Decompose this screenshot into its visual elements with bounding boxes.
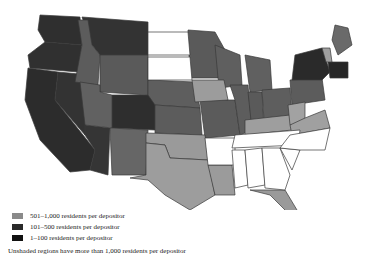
state-iowa [192, 80, 228, 102]
legend-swatch-light [12, 213, 23, 219]
us-choropleth-map [0, 0, 371, 210]
state-michigan [245, 55, 272, 92]
state-florida [250, 190, 300, 210]
state-missouri [200, 100, 240, 138]
legend-item-101-500: 101–500 residents per depositor [12, 221, 371, 232]
legend-item-501-1000: 501–1,000 residents per depositor [12, 210, 371, 221]
legend-note: Unshaded regions have more than 1,000 re… [8, 247, 186, 255]
legend-swatch-medium [12, 224, 23, 230]
map-canvas [0, 0, 371, 210]
state-nebraska [148, 80, 200, 108]
legend-label: 101–500 residents per depositor [30, 223, 120, 231]
state-maine [332, 25, 352, 55]
state-oregon [28, 42, 82, 72]
state-massachusetts-area [328, 62, 348, 78]
legend-label: 501–1,000 residents per depositor [30, 212, 125, 220]
state-colorado [112, 95, 155, 130]
state-wyoming [100, 55, 148, 95]
state-washington [38, 15, 82, 45]
state-new-mexico [110, 128, 148, 175]
legend-swatch-dark [12, 235, 23, 241]
state-kansas [155, 105, 202, 135]
legend-item-1-100: 1–100 residents per depositor [12, 232, 371, 243]
state-alabama [245, 148, 265, 188]
map-legend: 501–1,000 residents per depositor 101–50… [12, 210, 371, 243]
state-south-dakota [148, 57, 192, 80]
state-north-dakota [148, 32, 190, 55]
legend-label: 1–100 residents per depositor [30, 234, 113, 242]
state-arkansas [205, 138, 235, 165]
state-pennsylvania [290, 78, 325, 105]
